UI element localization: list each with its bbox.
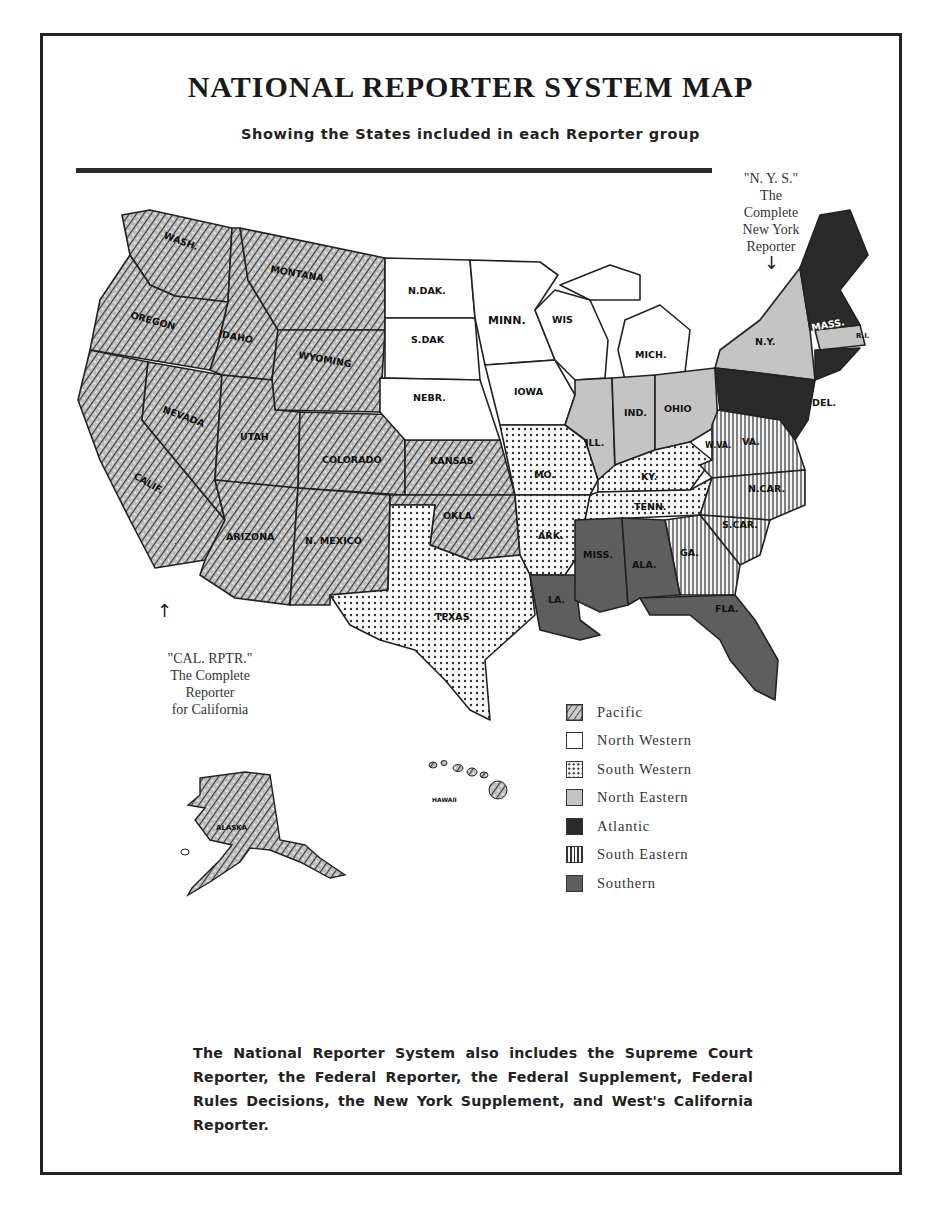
nys-abbrev: "N. Y. S." xyxy=(716,170,826,187)
label-ind: IND. xyxy=(624,407,647,418)
state-nmexico xyxy=(290,488,390,605)
label-ky: KY. xyxy=(641,471,657,482)
label-miss: MISS. xyxy=(583,549,613,560)
state-ind xyxy=(612,375,655,465)
state-sdak xyxy=(385,318,480,380)
state-ncar xyxy=(700,470,805,520)
label-la: LA. xyxy=(548,594,565,605)
state-conn xyxy=(815,348,860,380)
legend-item-south-western: South Western xyxy=(566,755,692,784)
label-ri: R.I. xyxy=(856,332,869,340)
label-colorado: COLORADO xyxy=(322,454,381,465)
label-nmexico: N. MEXICO xyxy=(305,535,362,546)
legend-item-south-eastern: South Eastern xyxy=(566,841,692,870)
us-map: WASH. OREGON CALIF. NEVADA IDAHO MONTANA… xyxy=(70,200,880,900)
map-legend: Pacific North Western South Western Nort… xyxy=(566,698,692,898)
label-texas: TEXAS xyxy=(435,611,470,622)
label-scar: S.CAR. xyxy=(722,519,758,530)
label-alaska: ALASKA xyxy=(216,824,248,832)
south-eastern-swatch-icon xyxy=(566,846,583,863)
hawaii-inset: HAWAII xyxy=(429,761,507,804)
legend-label: South Western xyxy=(597,761,692,778)
legend-label: North Eastern xyxy=(597,789,688,806)
label-ohio: OHIO xyxy=(664,403,692,414)
north-western-swatch-icon xyxy=(566,732,583,749)
title-rule xyxy=(76,168,712,173)
label-ill: ILL. xyxy=(585,437,604,448)
legend-item-north-western: North Western xyxy=(566,727,692,756)
legend-label: Atlantic xyxy=(597,818,650,835)
label-wis: WIS xyxy=(552,314,573,325)
label-ny: N.Y. xyxy=(755,336,775,347)
state-nebr xyxy=(380,378,500,440)
southern-swatch-icon xyxy=(566,875,583,892)
label-minn: MINN. xyxy=(488,314,526,327)
label-utah: UTAH xyxy=(240,431,269,442)
footer-note: The National Reporter System also includ… xyxy=(193,1041,753,1137)
state-ny xyxy=(715,268,815,380)
label-kansas: KANSAS xyxy=(430,455,474,466)
label-arizona: ARIZONA xyxy=(226,531,275,542)
label-ncar: N.CAR. xyxy=(748,483,785,494)
label-ark: ARK. xyxy=(538,530,564,541)
state-wyoming xyxy=(272,330,385,412)
label-iowa: IOWA xyxy=(514,386,544,397)
page-title: NATIONAL REPORTER SYSTEM MAP xyxy=(0,70,941,104)
pacific-swatch-icon xyxy=(566,704,583,721)
alaska-inset: ALASKA xyxy=(181,772,345,895)
label-ala: ALA. xyxy=(632,559,657,570)
label-mich: MICH. xyxy=(635,349,667,360)
south-western-swatch-icon xyxy=(566,761,583,778)
state-kansas xyxy=(405,440,515,495)
label-del: DEL. xyxy=(812,397,836,408)
label-tenn: TENN. xyxy=(634,501,666,512)
label-nebr: NEBR. xyxy=(413,392,446,403)
label-hawaii: HAWAII xyxy=(432,796,457,803)
page-subtitle: Showing the States included in each Repo… xyxy=(0,126,941,142)
legend-item-north-eastern: North Eastern xyxy=(566,784,692,813)
label-okla: OKLA. xyxy=(443,510,476,521)
label-fla: FLA. xyxy=(715,603,739,614)
state-miss xyxy=(575,518,628,612)
legend-item-southern: Southern xyxy=(566,869,692,898)
north-eastern-swatch-icon xyxy=(566,789,583,806)
label-ndak: N.DAK. xyxy=(408,285,446,296)
state-mich-lower xyxy=(618,305,690,380)
legend-item-pacific: Pacific xyxy=(566,698,692,727)
state-new-england xyxy=(800,210,868,330)
legend-label: South Eastern xyxy=(597,846,688,863)
legend-item-atlantic: Atlantic xyxy=(566,812,692,841)
state-fla xyxy=(640,595,778,700)
legend-label: Southern xyxy=(597,875,656,892)
label-ga: GA. xyxy=(680,547,699,558)
label-mo: MO. xyxy=(534,469,555,480)
atlantic-swatch-icon xyxy=(566,818,583,835)
label-sdak: S.DAK xyxy=(411,334,445,345)
legend-label: North Western xyxy=(597,732,692,749)
legend-label: Pacific xyxy=(597,704,643,721)
label-va: VA. xyxy=(742,436,760,447)
label-wva: W.VA. xyxy=(705,441,731,450)
